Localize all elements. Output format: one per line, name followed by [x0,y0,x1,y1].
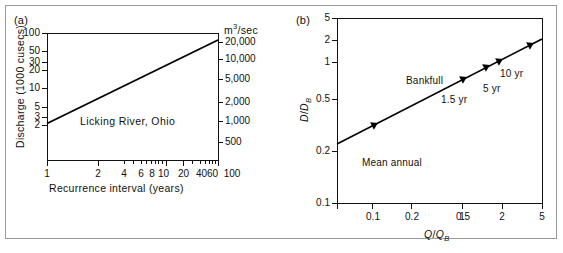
panel-b-xtick-0-1: 0.1 [362,211,384,222]
panel-a-y2tick-10000: 10,000 [225,53,256,64]
panel-b-ytick-1: 1 [314,56,330,67]
annotation-1-5yr: 1.5 yr [441,94,467,105]
panel-a-y2tick-20000: 20,000 [225,36,256,47]
x-title-numerator: Q [424,228,432,240]
panel-b-ytick-2: 2 [314,34,330,45]
figure-container: (a) [0,0,563,253]
panel-a-y2tick-500: 500 [225,136,242,147]
panel-b-xtick-0-2: 0.2 [401,211,423,222]
panel-a-xtick-4: 4 [118,168,130,179]
y2-title-unit: m [224,24,233,36]
y2-title-per-sec: /sec [238,24,258,36]
y-title-denominator-sub: B [304,98,313,103]
marker-5yr [482,61,492,71]
panel-b-tag: (b) [296,14,310,26]
y-title-numerator: D [298,114,310,122]
annotation-5yr: 5 yr [483,83,500,94]
panel-a-y2tick-1000: 1,000 [225,115,250,126]
panel-b-xtick-1: 1 [456,211,468,222]
panel-b-x-axis-title: Q/QB [424,228,450,243]
panel-b-data-line [337,39,542,144]
x-title-denominator-sub: B [444,234,449,243]
panel-b-xtick-5-hidden: 5 [536,211,548,222]
marker-upper [526,39,536,49]
panel-a-xtick-20: 20 [176,168,191,179]
panel-b-ytick-5: 5 [314,12,330,23]
panel-a-data-line [47,40,218,124]
panel-a-y2tick-5000: 5,000 [225,73,250,84]
annotation-bankfull: Bankfull [406,75,443,86]
marker-10yr [495,55,505,65]
panel-b-ytick-0-1: 0.1 [305,197,330,208]
panel-b-ytick-0-2: 0.2 [305,145,330,156]
panel-b-y-axis-title: D/DB [298,98,313,122]
panel-a-x-axis-title: Recurrence interval (years) [49,182,184,194]
panel-a-y2tick-2000: 2,000 [225,96,250,107]
panel-b-xtick-2: 2 [496,211,508,222]
panel-a-xtick-10: 10 [156,168,171,179]
annotation-10yr: 10 yr [500,68,523,79]
panel-a-y-axis-title: Discharge (1000 cusecs) [14,25,26,148]
panel-a-xtick-60: 60 [205,168,220,179]
panel-a-xtick-1: 1 [41,168,53,179]
x-title-denominator: Q [436,228,444,240]
marker-bankfull-1-5yr [459,73,469,83]
panel-a-xtick-100: 100 [222,168,242,179]
panel-a-y2-axis-title: m3/sec [224,22,258,36]
marker-mean-annual [370,119,380,129]
y-title-denominator: D [298,103,310,111]
annotation-mean-annual: Mean annual [362,157,422,168]
panel-a-series-note: Licking River, Ohio [80,115,175,127]
panel-a-xtick-2: 2 [92,168,104,179]
